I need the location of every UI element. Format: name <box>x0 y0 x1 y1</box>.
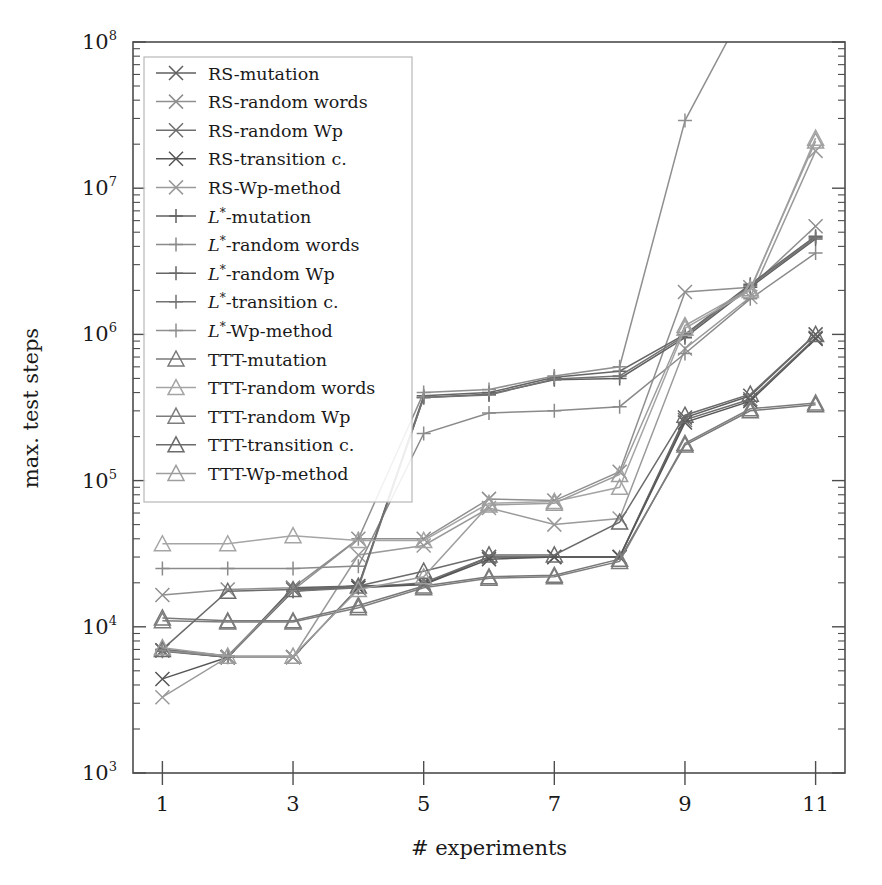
legend-item-label: L*-transition c. <box>207 291 339 312</box>
legend-item-label: RS-random words <box>208 92 368 112</box>
x-tick-label: 1 <box>156 792 169 816</box>
x-tick-label: 9 <box>678 792 691 816</box>
legend-item-label: RS-random Wp <box>208 121 343 141</box>
legend-item-label: RS-transition c. <box>208 149 347 169</box>
legend-item-label: RS-Wp-method <box>208 178 341 198</box>
legend-item-label: L*-Wp-method <box>207 320 333 341</box>
x-tick-label: 11 <box>802 792 829 816</box>
legend-item-label: TTT-random Wp <box>208 407 350 427</box>
log-line-chart: 103104105106107108 1357911 max. test ste… <box>0 0 882 885</box>
x-tick-label: 7 <box>548 792 561 816</box>
legend-item-label: RS-mutation <box>208 64 320 84</box>
legend-item-label: TTT-transition c. <box>208 435 354 455</box>
chart-page: 103104105106107108 1357911 max. test ste… <box>0 0 882 885</box>
x-tick-label: 3 <box>286 792 299 816</box>
x-axis-title: # experiments <box>411 836 567 860</box>
x-tick-label: 5 <box>417 792 430 816</box>
y-axis-title: max. test steps <box>19 328 43 488</box>
legend-item-label: TTT-Wp-method <box>208 464 348 484</box>
legend-item-label: L*-random Wp <box>207 263 335 284</box>
chart-legend[interactable]: RS-mutationRS-random wordsRS-random WpRS… <box>144 57 412 502</box>
legend-item-label: TTT-mutation <box>208 350 327 370</box>
legend-item-label: TTT-random words <box>208 378 375 398</box>
legend-item-label: L*-random words <box>207 234 360 255</box>
